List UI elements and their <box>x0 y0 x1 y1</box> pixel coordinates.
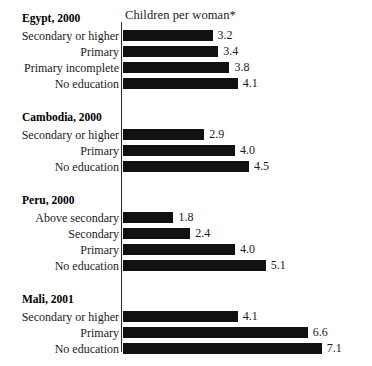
bar-value-label: 4.0 <box>240 244 255 255</box>
bar <box>123 46 218 57</box>
bar-category-label: Primary <box>80 46 119 58</box>
group-header: Egypt, 2000 <box>22 12 80 24</box>
bar-category-label: No education <box>55 260 119 272</box>
fertility-by-education-chart: Children per woman* Egypt, 2000Secondary… <box>0 0 372 366</box>
bar-value-label: 4.5 <box>254 161 269 172</box>
bar <box>123 62 229 73</box>
bar <box>123 212 173 223</box>
bar-value-label: 1.8 <box>178 212 193 223</box>
bar-value-label: 3.2 <box>218 30 233 41</box>
bar-value-label: 5.1 <box>271 260 286 271</box>
bar-category-label: Secondary or higher <box>22 30 119 42</box>
bar-value-label: 4.0 <box>240 145 255 156</box>
bar-category-label: Above secondary <box>35 212 119 224</box>
bar-value-label: 4.1 <box>243 78 258 89</box>
bar <box>123 145 235 156</box>
bar <box>123 129 204 140</box>
bar-value-label: 7.1 <box>327 343 342 354</box>
bar-value-label: 2.9 <box>209 129 224 140</box>
bar <box>123 311 238 322</box>
value-axis-line <box>121 22 122 352</box>
bar-value-label: 3.8 <box>234 62 249 73</box>
bar <box>123 343 322 354</box>
bar-category-label: Primary incomplete <box>24 62 119 74</box>
bar-category-label: Primary <box>80 244 119 256</box>
bar <box>123 244 235 255</box>
bar-value-label: 4.1 <box>243 311 258 322</box>
bar-category-label: Primary <box>80 327 119 339</box>
bar <box>123 30 213 41</box>
bar-value-label: 6.6 <box>313 327 328 338</box>
bar <box>123 327 308 338</box>
bar-category-label: Primary <box>80 145 119 157</box>
group-header: Mali, 2001 <box>22 293 74 305</box>
bar <box>123 161 249 172</box>
bar-category-label: No education <box>55 161 119 173</box>
bar-value-label: 3.4 <box>223 46 238 57</box>
bar-category-label: Secondary <box>68 228 119 240</box>
group-header: Cambodia, 2000 <box>22 111 102 123</box>
bar <box>123 260 266 271</box>
bar-category-label: No education <box>55 78 119 90</box>
bar-category-label: Secondary or higher <box>22 129 119 141</box>
group-header: Peru, 2000 <box>22 194 74 206</box>
bar-category-label: Secondary or higher <box>22 311 119 323</box>
bar <box>123 78 238 89</box>
axis-title: Children per woman* <box>125 8 236 23</box>
bar-category-label: No education <box>55 343 119 355</box>
bar-value-label: 2.4 <box>195 228 210 239</box>
bar <box>123 228 190 239</box>
